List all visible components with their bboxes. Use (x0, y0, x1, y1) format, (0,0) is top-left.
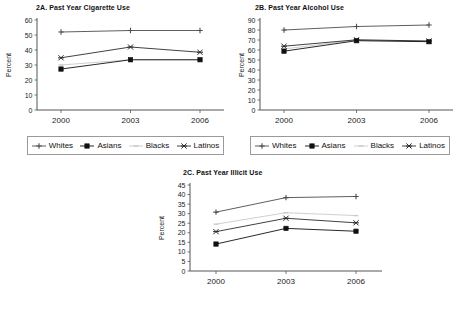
legend-item-blacks[interactable]: Blacks (129, 141, 170, 151)
data-point (59, 67, 63, 71)
y-tick-label: 0 (252, 107, 256, 114)
square-legend-icon (305, 141, 319, 151)
legend-marker-icon (85, 143, 89, 147)
series-whites (213, 194, 358, 215)
data-point (128, 28, 133, 33)
y-tick-label: 50 (248, 57, 256, 64)
plot-area-2b: 0102030405060708090Percent200020032006 (238, 14, 461, 132)
y-tick-label: 10 (248, 97, 256, 104)
chart-panel-illicit: 2C. Past Year Illicit Use 05101520253035… (152, 166, 392, 327)
chart-panel-alcohol: 2B. Past Year Alcohol Use 01020304050607… (238, 0, 461, 165)
data-point (213, 209, 218, 214)
legend-item-latinos[interactable]: Latinos (177, 141, 220, 151)
legend-label: Blacks (371, 141, 395, 150)
y-tick-label: 15 (178, 239, 186, 246)
chart-panel-cigarette: 2A. Past Year Cigarette Use 010203040506… (0, 0, 232, 165)
dash-legend-icon (129, 141, 143, 151)
y-tick-label: 10 (25, 92, 33, 99)
y-axis-title: Percent (5, 53, 12, 77)
star-legend-icon (402, 141, 416, 151)
y-tick-label: 10 (178, 248, 186, 255)
legend-label: Asians (322, 141, 346, 150)
series-line (61, 47, 200, 58)
legend-2b: WhitesAsiansBlacksLatinos (250, 136, 450, 155)
y-tick-label: 20 (178, 229, 186, 236)
legend-label: Whites (272, 141, 296, 150)
legend-marker-icon (36, 143, 41, 148)
data-point (353, 194, 358, 199)
data-point (354, 229, 358, 233)
y-tick-label: 50 (25, 32, 33, 39)
y-tick-label: 20 (25, 77, 33, 84)
data-point (427, 40, 431, 44)
x-tick-label: 2006 (347, 277, 365, 286)
series-whites (58, 28, 202, 35)
y-tick-label: 20 (248, 87, 256, 94)
y-tick-label: 60 (248, 47, 256, 54)
y-tick-label: 70 (248, 37, 256, 44)
data-point (197, 28, 202, 33)
x-tick-label: 2006 (420, 116, 438, 125)
legend-label: Latinos (194, 141, 220, 150)
x-tick-label: 2006 (191, 116, 209, 125)
dash-legend-icon (354, 141, 368, 151)
data-point (283, 216, 289, 221)
data-point (58, 55, 64, 60)
y-axis-title: Percent (238, 53, 245, 77)
x-tick-label: 2000 (52, 116, 70, 125)
y-tick-label: 40 (25, 47, 33, 54)
data-point (353, 220, 359, 225)
plus-legend-icon (255, 141, 269, 151)
data-point (128, 58, 132, 62)
data-point (283, 195, 288, 200)
series-whites (281, 22, 431, 32)
y-tick-label: 25 (178, 220, 186, 227)
y-tick-label: 0 (182, 268, 186, 275)
y-tick-label: 5 (182, 258, 186, 265)
data-point (354, 24, 359, 29)
y-tick-label: 40 (248, 67, 256, 74)
y-tick-label: 90 (248, 17, 256, 24)
plot-area-2c: 051015202530354045Percent200020032006 (152, 179, 392, 293)
data-point (58, 29, 63, 34)
legend-label: Blacks (146, 141, 170, 150)
legend-marker-icon (259, 143, 264, 148)
chart-title-2c: 2C. Past Year Illicit Use (183, 169, 262, 176)
legend-label: Asians (97, 141, 121, 150)
legend-marker-icon (309, 143, 313, 147)
legend-label: Latinos (419, 141, 445, 150)
legend-item-blacks[interactable]: Blacks (354, 141, 395, 151)
legend-2a: WhitesAsiansBlacksLatinos (27, 136, 224, 155)
data-point (282, 49, 286, 53)
data-point (354, 39, 358, 43)
legend-item-whites[interactable]: Whites (32, 141, 73, 151)
data-point (426, 22, 431, 27)
legend-item-whites[interactable]: Whites (255, 141, 296, 151)
data-point (197, 50, 203, 55)
y-axis-title: Percent (158, 216, 165, 240)
y-tick-label: 30 (248, 77, 256, 84)
y-tick-label: 45 (178, 182, 186, 189)
x-tick-label: 2003 (277, 277, 295, 286)
x-tick-label: 2000 (207, 277, 225, 286)
legend-marker-icon (406, 143, 412, 148)
series-asians (59, 58, 202, 72)
chart-svg: 0102030405060708090Percent200020032006 (238, 14, 461, 132)
x-tick-label: 2003 (348, 116, 366, 125)
square-legend-icon (80, 141, 94, 151)
y-tick-label: 30 (178, 210, 186, 217)
legend-item-asians[interactable]: Asians (305, 141, 346, 151)
y-tick-label: 60 (25, 17, 33, 24)
legend-item-asians[interactable]: Asians (80, 141, 121, 151)
y-tick-label: 35 (178, 201, 186, 208)
chart-svg: 051015202530354045Percent200020032006 (152, 179, 392, 293)
series-asians (214, 226, 358, 246)
y-tick-label: 80 (248, 27, 256, 34)
legend-marker-icon (181, 143, 187, 148)
legend-item-latinos[interactable]: Latinos (402, 141, 445, 151)
data-point (128, 44, 134, 49)
data-point (198, 58, 202, 62)
chart-svg: 0102030405060Percent200020032006 (0, 14, 232, 132)
data-point (214, 242, 218, 246)
star-legend-icon (177, 141, 191, 151)
